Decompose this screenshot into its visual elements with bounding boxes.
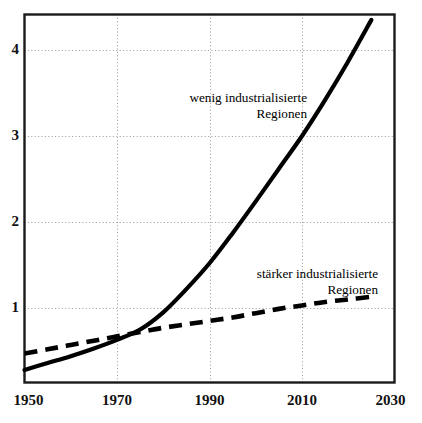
chart-container: 1 2 3 4 1950 1970 1990 2010 2030 wenig i… [0,0,422,423]
y-axis-tick-label: 3 [1,127,19,144]
annotation-wenig-industrialisierte: wenig industrialisierte Regionen [142,90,307,121]
annotation-line-2: Regionen [142,106,307,122]
annotation-line-2: Regionen [206,282,378,298]
x-axis-tick-label: 2030 [368,392,414,409]
annotation-line-1: stärker industrialisierte [206,266,378,282]
y-axis-tick-label: 1 [1,299,19,316]
y-axis-tick-label: 4 [1,41,19,58]
chart-plot-area [0,0,422,423]
x-axis-tick-label: 1970 [94,392,140,409]
y-axis-tick-label: 2 [1,213,19,230]
x-axis-tick-label: 2010 [279,392,325,409]
x-axis-tick-label: 1950 [6,392,52,409]
x-axis-tick-label: 1990 [187,392,233,409]
annotation-staerker-industrialisierte: stärker industrialisierte Regionen [206,266,378,297]
annotation-line-1: wenig industrialisierte [142,90,307,106]
